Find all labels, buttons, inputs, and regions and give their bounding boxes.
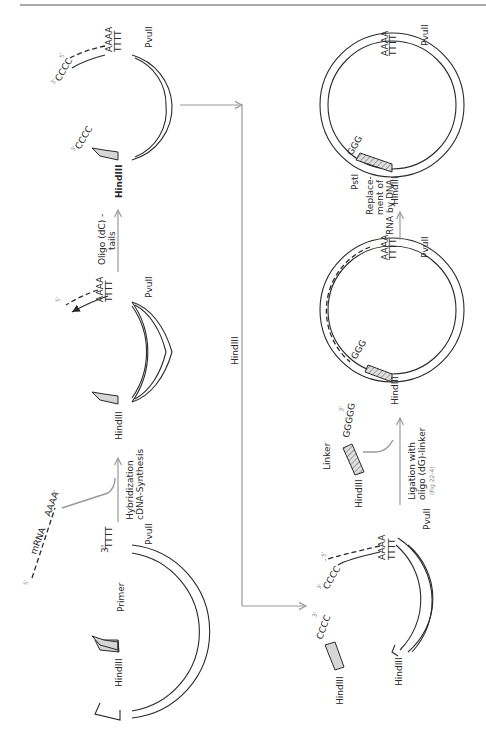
- arrow-hindiii: HindIII: [180, 105, 306, 606]
- step3-site-right: PvuII: [144, 26, 154, 48]
- step2-site-left: HindIII: [114, 411, 124, 440]
- step6-site-pst: PstI: [350, 174, 360, 190]
- arrow1-label-2: cDNA-Synthesis: [135, 448, 145, 520]
- step3-tail-bottom: CCCC: [73, 124, 94, 151]
- step1-site-left: HindIII: [114, 658, 124, 687]
- step2-site-right: PvuII: [144, 276, 154, 298]
- linker-site: HindIII: [354, 479, 364, 508]
- mrna-5prime: 5': [22, 579, 29, 585]
- step1-poly-t-end: 3': [100, 545, 110, 553]
- step4-fragment-tail-end: 3': [310, 610, 319, 618]
- arrow-hybridization: Hybridization cDNA-Synthesis: [62, 448, 145, 522]
- step6-site-right: PvuII: [420, 24, 430, 46]
- step1-mrna: 5' mRNA AAAA 3': [22, 488, 61, 585]
- cdna-strand: [72, 296, 108, 312]
- arrow1-label-1: Hybridization: [125, 460, 135, 520]
- step4-fragment-site: HindIII: [335, 676, 345, 705]
- linker-end: 3': [337, 405, 345, 412]
- step4-vector-site: HindIII: [394, 657, 404, 686]
- arrow3-label: HindIII: [230, 336, 240, 365]
- step5-site-left: HindIII: [390, 376, 400, 405]
- linker-label: Linker: [322, 442, 332, 470]
- step4-site-right: PvuII: [422, 508, 432, 530]
- step2-five-prime: 5': [54, 296, 61, 302]
- step5-poly-t: TTTT: [388, 238, 398, 261]
- step3-five-prime: 5': [58, 52, 65, 58]
- linker-shape: [343, 444, 364, 475]
- arrow-oligo-dc: Oligo (dC) - tails: [97, 210, 118, 272]
- step5-site-right: PvuII: [420, 236, 430, 258]
- step4-five-prime: 5': [320, 551, 327, 557]
- fragment-insert: [325, 642, 344, 670]
- figure-page: HindIII PvuII Primer TTTT 3' 5' mRNA AAA…: [0, 0, 486, 737]
- step1-primer-label: Primer: [116, 582, 126, 612]
- step3-poly-t: TTTT: [113, 30, 123, 53]
- step2-poly-t: TTTT: [104, 280, 114, 303]
- step6-poly-t: TTTT: [388, 34, 398, 57]
- step3-site-left: HindIII: [114, 164, 124, 198]
- step4-fragment-tail: CCCC: [314, 614, 332, 641]
- step1-site-right: PvuII: [144, 523, 154, 545]
- step1-vector: HindIII PvuII Primer TTTT 3': [92, 523, 210, 720]
- step6-site-left: HindIII: [390, 176, 400, 205]
- step3-vector: HindIII PvuII AAAA TTTT 5' CCCC 3' CCCC …: [49, 26, 172, 198]
- arrow4-label-1: Ligation with: [407, 442, 417, 500]
- arrow5-label-1: Replace-: [365, 176, 375, 215]
- step3-tail-top: CCCC: [53, 56, 74, 83]
- step5-vector: AAAA TTTT PvuII GGG HindIII: [320, 234, 464, 405]
- step4-poly-t: TTTT: [387, 538, 397, 561]
- arrow4-note: (Fig 22-4): [428, 466, 436, 495]
- arrow2-label-1: Oligo (dC) -: [97, 214, 107, 265]
- arrow4-label-2: oligo (dG)-linker: [417, 427, 427, 500]
- arrow5-label-2: ment of: [375, 179, 385, 215]
- arrow2-label-2: tails: [107, 231, 117, 250]
- step4-tail: CCCC: [321, 564, 342, 591]
- step4-fragment: CCCC 3' HindIII: [310, 610, 345, 705]
- step6-vector: AAAA TTTT PvuII GGG PstI HindIII: [320, 24, 464, 205]
- arrow-ligation: Ligation with oligo (dG)-linker (Fig 22-…: [322, 402, 436, 508]
- cdna-cloning-diagram: HindIII PvuII Primer TTTT 3' 5' mRNA AAA…: [0, 0, 486, 737]
- mrna-label: mRNA: [28, 525, 47, 555]
- step5-g-tail: GGG: [349, 338, 368, 361]
- step2-vector: HindIII PvuII AAAA TTTT 5': [54, 276, 172, 440]
